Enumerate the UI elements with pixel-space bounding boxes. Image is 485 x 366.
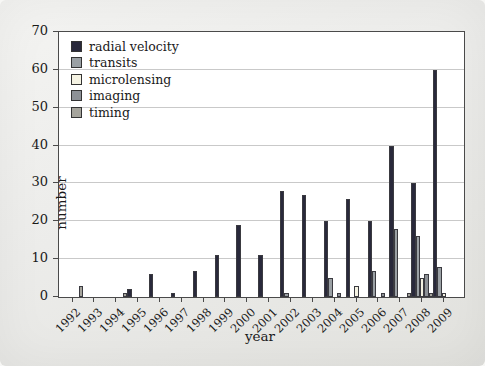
legend-item-radial-velocity: radial velocity — [71, 38, 179, 55]
x-tick-mark — [181, 297, 182, 302]
x-tick-mark — [290, 297, 291, 302]
legend-swatch-icon — [71, 74, 82, 85]
gridline-30 — [59, 182, 464, 183]
x-tick-mark — [377, 297, 378, 302]
bar-radial-velocity-2009 — [433, 70, 437, 297]
x-tick-mark — [443, 297, 444, 302]
y-tick-label-10: 10 — [0, 251, 48, 265]
x-tick-mark — [356, 297, 357, 302]
legend-label: timing — [89, 106, 130, 119]
y-tick-label-30: 30 — [0, 175, 48, 189]
y-tick-mark — [53, 145, 58, 146]
x-tick-mark — [72, 297, 73, 302]
bar-imaging-2004 — [337, 293, 341, 297]
x-tick-mark — [421, 297, 422, 302]
bar-radial-velocity-1999 — [215, 255, 219, 297]
y-tick-mark — [53, 69, 58, 70]
x-tick-mark — [93, 297, 94, 302]
y-tick-mark — [53, 258, 58, 259]
bar-radial-velocity-2000 — [236, 225, 240, 297]
x-tick-mark — [137, 297, 138, 302]
legend: radial velocitytransitsmicrolensingimagi… — [71, 38, 179, 121]
bar-radial-velocity-1996 — [149, 274, 153, 297]
x-tick-mark — [246, 297, 247, 302]
y-tick-label-20: 20 — [0, 213, 48, 227]
bar-radial-velocity-2005 — [346, 199, 350, 297]
legend-label: transits — [89, 56, 137, 69]
x-tick-mark — [115, 297, 116, 302]
legend-item-microlensing: microlensing — [71, 71, 179, 88]
legend-item-imaging: imaging — [71, 88, 179, 105]
legend-label: imaging — [89, 89, 140, 102]
bar-timing-1992 — [79, 286, 83, 297]
legend-item-timing: timing — [71, 104, 179, 121]
legend-item-transits: transits — [71, 55, 179, 72]
y-tick-label-0: 0 — [0, 289, 48, 303]
legend-swatch-icon — [71, 41, 82, 52]
x-tick-mark — [312, 297, 313, 302]
bar-transits-2007 — [394, 229, 398, 297]
y-tick-mark — [53, 107, 58, 108]
bar-transits-2006 — [372, 271, 376, 298]
y-tick-mark — [53, 296, 58, 297]
bar-radial-velocity-2001 — [258, 255, 262, 297]
y-tick-label-70: 70 — [0, 24, 48, 38]
x-tick-mark — [224, 297, 225, 302]
y-tick-label-40: 40 — [0, 138, 48, 152]
legend-swatch-icon — [71, 90, 82, 101]
y-tick-mark — [53, 31, 58, 32]
y-tick-mark — [53, 182, 58, 183]
y-axis-title: number — [53, 143, 69, 263]
x-tick-mark — [159, 297, 160, 302]
bar-radial-velocity-2002 — [280, 191, 284, 297]
plot-area: radial velocitytransitsmicrolensingimagi… — [58, 31, 465, 298]
gridline-20 — [59, 220, 464, 221]
y-tick-mark — [53, 220, 58, 221]
bar-radial-velocity-1995 — [127, 289, 131, 297]
x-tick-mark — [334, 297, 335, 302]
bar-radial-velocity-2003 — [302, 195, 306, 297]
legend-label: radial velocity — [89, 40, 179, 53]
bar-transits-2004 — [328, 278, 332, 297]
y-tick-label-60: 60 — [0, 62, 48, 76]
x-tick-mark — [268, 297, 269, 302]
x-tick-mark — [203, 297, 204, 302]
bar-microlensing-2005 — [354, 286, 358, 297]
x-axis-title: year — [160, 328, 360, 344]
exoplanet-discoveries-chart: radial velocitytransitsmicrolensingimagi… — [0, 0, 485, 366]
bar-radial-velocity-1998 — [193, 271, 197, 298]
bar-radial-velocity-1997 — [171, 293, 175, 297]
legend-label: microlensing — [89, 73, 171, 86]
gridline-40 — [59, 145, 464, 146]
x-tick-mark — [399, 297, 400, 302]
bar-transits-2002 — [284, 293, 288, 297]
bar-imaging-2006 — [381, 293, 385, 297]
legend-swatch-icon — [71, 57, 82, 68]
y-tick-label-50: 50 — [0, 100, 48, 114]
legend-swatch-icon — [71, 107, 82, 118]
